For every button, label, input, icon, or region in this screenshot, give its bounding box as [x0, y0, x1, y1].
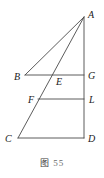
figure-caption-word: 图	[40, 158, 50, 168]
vertex-label-E: E	[55, 76, 62, 87]
figure-caption: 图 55	[0, 156, 104, 169]
vertex-label-D: D	[87, 133, 96, 144]
figure-caption-number: 55	[50, 158, 64, 168]
segment-AB	[25, 17, 84, 75]
vertex-label-F: F	[27, 94, 35, 105]
vertex-label-C: C	[5, 133, 12, 144]
segment-AC	[18, 17, 84, 138]
vertex-label-L: L	[88, 94, 95, 105]
vertex-label-A: A	[87, 9, 95, 20]
vertex-label-B: B	[14, 71, 20, 82]
diagram-strokes	[18, 17, 84, 138]
vertex-label-G: G	[88, 70, 95, 81]
vertex-labels: A B C D E F G L	[5, 9, 96, 144]
figure-panel: A B C D E F G L 图 55	[0, 0, 104, 178]
geometry-diagram: A B C D E F G L	[0, 0, 104, 178]
